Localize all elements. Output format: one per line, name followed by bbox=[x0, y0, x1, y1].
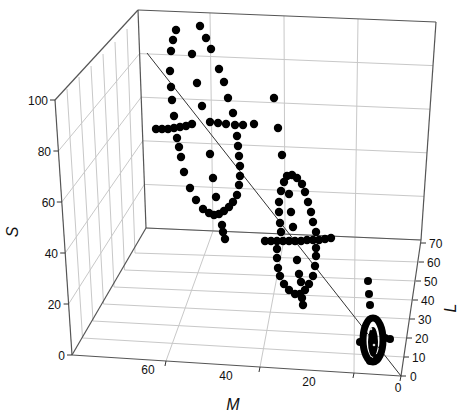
m-tick-0: 0 bbox=[395, 381, 402, 395]
m-tick-40: 40 bbox=[219, 369, 233, 383]
l-tick-0: 0 bbox=[410, 370, 417, 384]
l-tick-40: 40 bbox=[421, 294, 435, 308]
3d-scatter-plot: 0 20 40 60 80 100 S 60 40 20 0 M bbox=[0, 0, 469, 420]
m-axis: 60 40 20 0 M bbox=[141, 361, 401, 413]
l-tick-50: 50 bbox=[424, 275, 438, 289]
l-axis: 0 10 20 30 40 50 60 70 L bbox=[401, 237, 459, 384]
s-axis-label: S bbox=[4, 226, 21, 237]
m-axis-label: M bbox=[226, 396, 240, 413]
s-axis: 0 20 40 60 80 100 S bbox=[4, 94, 72, 363]
m-tick-60: 60 bbox=[141, 363, 155, 377]
s-tick-80: 80 bbox=[38, 145, 52, 159]
s-tick-40: 40 bbox=[45, 247, 59, 261]
l-tick-60: 60 bbox=[427, 256, 441, 270]
l-tick-20: 20 bbox=[415, 332, 429, 346]
m-tick-20: 20 bbox=[302, 375, 316, 389]
left-wall-grid bbox=[58, 29, 144, 338]
cluster-low bbox=[356, 277, 394, 365]
s-tick-60: 60 bbox=[42, 196, 56, 210]
cluster-mid bbox=[261, 94, 335, 309]
l-tick-30: 30 bbox=[418, 313, 432, 327]
s-tick-100: 100 bbox=[28, 94, 48, 108]
l-tick-70: 70 bbox=[429, 237, 443, 251]
s-tick-20: 20 bbox=[48, 298, 62, 312]
l-tick-10: 10 bbox=[412, 351, 426, 365]
s-tick-0: 0 bbox=[58, 349, 65, 363]
l-axis-label: L bbox=[442, 304, 459, 313]
